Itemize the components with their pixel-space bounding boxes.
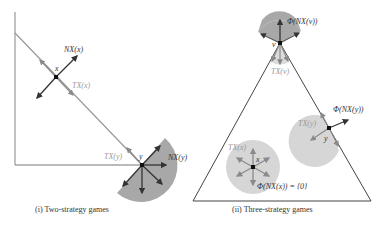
point-y-tri (327, 126, 331, 130)
label-x: x (54, 64, 59, 73)
label-nx-x: NX(x) (63, 45, 83, 54)
point-x (54, 75, 58, 79)
label-tx-v: TX(v) (271, 67, 290, 76)
label-phi-nx-x: Φ(NX(x)) = {0} (257, 182, 308, 191)
caption-three-strategy: (ii) Three-strategy games (232, 205, 313, 214)
label-x-tri: x (255, 155, 260, 164)
label-phi-nx-v: Φ(NX(v)) (287, 17, 318, 26)
diagram-canvas: x NX(x) TX(x) y TX(y) NX(y) (i) Two-stra… (0, 0, 382, 226)
panel-two-strategy: x NX(x) TX(x) y TX(y) NX(y) (i) Two-stra… (15, 12, 187, 214)
label-nx-y: NX(y) (167, 153, 187, 162)
label-y-tri: y (323, 134, 328, 143)
label-tx-y: TX(y) (104, 152, 123, 161)
label-y: y (138, 152, 143, 161)
panel-three-strategy: v Φ(NX(v)) TX(v) y TX(y) Φ(NX(y)) x TX(x… (193, 11, 371, 214)
point-y (140, 163, 144, 167)
label-tx-y-tri: TX(y) (298, 119, 317, 128)
caption-two-strategy: (i) Two-strategy games (35, 205, 109, 214)
label-tx-x: TX(x) (72, 81, 91, 90)
label-phi-nx-y: Φ(NX(y)) (333, 105, 364, 114)
label-v: v (272, 40, 276, 49)
point-x-tri (251, 165, 255, 169)
point-v (278, 41, 282, 45)
label-tx-x-tri: TX(x) (228, 143, 247, 152)
